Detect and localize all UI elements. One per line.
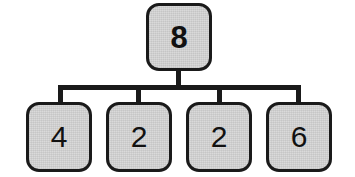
tree-node-child-2-label: 2 (131, 122, 148, 152)
tree-node-child-3[interactable]: 2 (186, 102, 252, 172)
tree-node-child-1-label: 4 (51, 122, 68, 152)
tree-node-root[interactable]: 8 (146, 3, 212, 71)
tree-node-child-3-label: 2 (211, 122, 228, 152)
connector-drop-child-2 (136, 89, 141, 103)
tree-node-root-label: 8 (170, 22, 187, 53)
tree-node-child-1[interactable]: 4 (26, 102, 92, 172)
connector-horizontal-bus (58, 85, 301, 90)
tree-node-child-4[interactable]: 6 (266, 102, 332, 172)
tree-node-child-4-label: 6 (291, 122, 308, 152)
tree-node-child-2[interactable]: 2 (106, 102, 172, 172)
tree-diagram: 8 4 2 2 6 (0, 0, 355, 177)
connector-drop-child-4 (296, 89, 301, 103)
connector-drop-child-3 (217, 89, 222, 103)
connector-drop-child-1 (58, 89, 63, 103)
